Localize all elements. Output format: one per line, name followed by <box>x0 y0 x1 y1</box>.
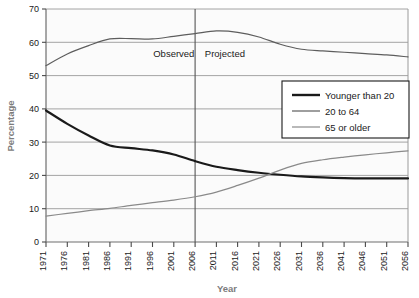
x-tick-label-2046: 2046 <box>357 251 367 271</box>
population-age-distribution-chart: 010203040506070 197119761981198619911996… <box>0 0 419 298</box>
x-tick-label-2026: 2026 <box>272 251 282 271</box>
x-tick-label-2041: 2041 <box>336 251 346 271</box>
x-tick-label-2011: 2011 <box>208 251 218 270</box>
legend-label-1: 20 to 64 <box>325 106 359 117</box>
y-tick-label-0: 0 <box>34 237 39 247</box>
x-tick-label-2031: 2031 <box>294 251 304 271</box>
x-tick-label-1976: 1976 <box>59 251 69 271</box>
x-axis-title: Year <box>217 283 237 294</box>
y-tick-label-20: 20 <box>29 171 39 181</box>
annotation-1: Projected <box>205 48 245 59</box>
x-tick-label-2006: 2006 <box>187 251 197 271</box>
legend-label-0: Younger than 20 <box>325 90 394 101</box>
x-tick-label-1991: 1991 <box>123 251 133 271</box>
x-tick-label-2056: 2056 <box>400 251 410 271</box>
y-tick-label-40: 40 <box>29 104 39 114</box>
y-axis-title: Percentage <box>5 100 16 151</box>
y-tick-label-50: 50 <box>29 71 39 81</box>
x-tick-label-1986: 1986 <box>102 251 112 271</box>
annotation-0: Observed <box>153 48 194 59</box>
x-axis: 1971197619811986199119962001200620112016… <box>38 242 410 271</box>
y-tick-label-70: 70 <box>29 4 39 14</box>
legend: Younger than 2020 to 6465 or older <box>282 81 409 138</box>
y-axis: 010203040506070 <box>29 4 46 247</box>
y-tick-label-10: 10 <box>29 204 39 214</box>
y-tick-label-30: 30 <box>29 138 39 148</box>
x-tick-label-2021: 2021 <box>251 251 261 271</box>
x-tick-label-2051: 2051 <box>379 251 389 271</box>
x-tick-label-2001: 2001 <box>166 251 176 271</box>
x-tick-label-1996: 1996 <box>145 251 155 271</box>
chart-svg: 010203040506070 197119761981198619911996… <box>0 0 419 298</box>
x-tick-label-1971: 1971 <box>38 251 48 271</box>
y-tick-label-60: 60 <box>29 38 39 48</box>
x-tick-label-1981: 1981 <box>81 251 91 271</box>
x-tick-label-2016: 2016 <box>230 251 240 271</box>
x-tick-label-2036: 2036 <box>315 251 325 271</box>
legend-label-2: 65 or older <box>325 122 370 133</box>
